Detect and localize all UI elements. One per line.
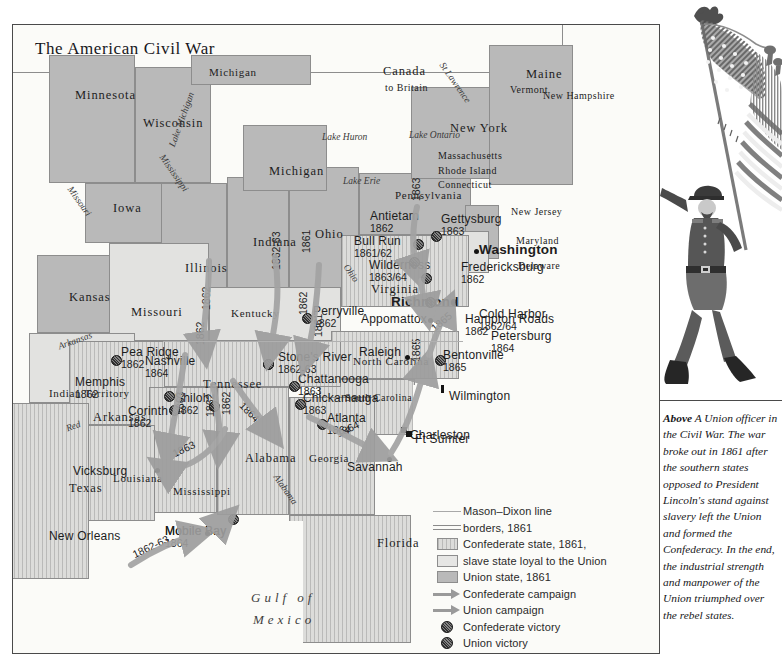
- region-label-pennsylvania: Pennsylvania: [395, 190, 462, 201]
- battle-label-wilderness: Wilderness: [369, 259, 430, 271]
- union-victory-marker-mobile-bay[interactable]: [228, 514, 239, 525]
- legend-label-union-victory-marker: Union victory: [463, 637, 528, 649]
- battle-label-antietam: Antietam: [370, 210, 419, 222]
- union-victory-marker-perryville[interactable]: [302, 313, 313, 324]
- battle-year-bentonville: 1865: [443, 362, 466, 373]
- region-label-michigan: Michigan: [269, 165, 324, 178]
- battle-label-chickamauga: Chickamauga: [303, 392, 379, 404]
- region-label-ohio: Ohio: [315, 228, 344, 241]
- legend-row-union-victory-marker: Union victory: [431, 635, 641, 652]
- union-officer-figure: [660, 186, 756, 384]
- city-marker-appomattox[interactable]: [428, 318, 433, 323]
- battle-label-petersburg: Petersburg: [491, 330, 552, 342]
- region-label-michigan: Michigan: [209, 67, 257, 78]
- battle-year-chickamauga: 1863: [303, 405, 326, 416]
- battle-label-shiloh: Shiloh: [175, 392, 210, 404]
- page-title: The American Civil War: [35, 39, 215, 59]
- legend-label-confederate-state-swatch: Confederate state, 1861,: [463, 538, 587, 550]
- panel-divider: [660, 400, 782, 401]
- water-label-lake-ontario: Lake Ontario: [409, 131, 460, 141]
- region-new-england: [489, 45, 573, 185]
- battle-year-nashville: 1864: [145, 368, 168, 379]
- battle-year-wilderness: 1863/64: [369, 272, 407, 283]
- battle-year-memphis: 1862: [75, 389, 98, 400]
- union-victory-marker-shiloh[interactable]: [209, 401, 220, 412]
- campaign-year-label: 1862-63: [271, 231, 282, 270]
- battle-year-hampton-roads: 1862: [465, 326, 488, 337]
- battle-year-shiloh: 1862: [175, 405, 198, 416]
- city-marker-vicksburg[interactable]: [155, 468, 160, 473]
- city-label-raleigh: Raleigh: [359, 346, 401, 358]
- city-label-savannah: Savannah: [347, 461, 403, 473]
- legend-row-confederate-campaign-arrow: Confederate campaign: [431, 586, 641, 603]
- map-frame: The American Civil War Canada to Britain…: [12, 24, 660, 654]
- city-label-new-orleans: New Orleans: [49, 530, 121, 542]
- battle-label-hampton-roads: Hampton Roads: [465, 313, 554, 325]
- battle-label-perryville: Perryville: [313, 305, 364, 317]
- legend-key-slave-state-loyal-swatch: [431, 555, 463, 567]
- city-label-richmond: Richmond: [391, 295, 459, 309]
- water-label-lake-huron: Lake Huron: [322, 133, 367, 143]
- gulf-of-mexico-label-line1: Gulf of: [251, 591, 315, 604]
- city-label-ft-sumter: Ft Sumter: [415, 433, 469, 445]
- legend-row-confederate-state-swatch: Confederate state, 1861,: [431, 536, 641, 553]
- region-label-kentucky: Kentucky: [231, 308, 279, 319]
- region-label-new-jersey: New Jersey: [511, 207, 562, 217]
- region-label-illinois: Illinois: [185, 262, 228, 275]
- city-label-mobile-bay: Mobile Bay: [165, 525, 226, 537]
- city-marker-wilmington[interactable]: [441, 385, 444, 393]
- battle-year-mobile-bay: 1864: [165, 538, 188, 549]
- battle-year-corinth: 1862: [128, 418, 151, 429]
- gulf-of-mexico-label-line2: Mexico: [253, 613, 315, 626]
- city-label-wilmington: Wilmington: [449, 390, 510, 402]
- map-legend: Mason–Dixon lineborders, 1861Confederate…: [431, 503, 641, 654]
- legend-label-mason-dixon-line: Mason–Dixon line: [463, 505, 552, 517]
- region-label-canada: Canada: [383, 65, 426, 78]
- legend-row-union-campaign-arrow: Union campaign: [431, 602, 641, 619]
- battle-label-atlanta: Atlanta: [327, 412, 366, 424]
- region-label-missouri: Missouri: [131, 306, 183, 319]
- map-page: The American Civil War Canada to Britain…: [0, 0, 782, 667]
- confed-victory-marker-antietam[interactable]: [413, 239, 424, 250]
- region-label-alabama: Alabama: [245, 452, 296, 465]
- legend-key-mason-dixon-line: [431, 511, 463, 512]
- city-marker-ft-sumter[interactable]: [406, 431, 412, 437]
- battle-label-bentonville: Bentonville: [443, 349, 504, 361]
- campaign-year-label: 1862: [201, 287, 212, 310]
- union-victory-marker-memphis[interactable]: [164, 391, 175, 402]
- legend-label-union-state-swatch: Union state, 1861: [463, 571, 551, 583]
- battle-year-pea-ridge: 1862: [121, 359, 144, 370]
- union-victory-marker-nashville[interactable]: [263, 359, 274, 370]
- battle-label-stone-s-river: Stone's River: [278, 351, 352, 363]
- legend-row-borders-1861: borders, 1861: [431, 520, 641, 537]
- campaign-year-label: 1862: [298, 292, 309, 315]
- city-label-washington: Washington: [479, 243, 558, 257]
- battle-label-pea-ridge: Pea Ridge: [121, 346, 179, 358]
- region-label-kansas: Kansas: [69, 291, 111, 304]
- battle-year-atlanta: 1864: [327, 425, 350, 436]
- region-label-vermont: Vermont: [510, 85, 548, 95]
- legend-label-slave-state-loyal-swatch: slave state loyal to the Union: [463, 555, 607, 567]
- confed-victory-marker-wilderness[interactable]: [421, 273, 432, 284]
- region-michigan-lower: [243, 125, 327, 191]
- region-sublabel-canada-to-britain: to Britain: [385, 83, 428, 93]
- region-label-georgia: Georgia: [309, 453, 349, 464]
- legend-row-union-state-swatch: Union state, 1861: [431, 569, 641, 586]
- legend-row-mason-dixon-line: Mason–Dixon line: [431, 503, 641, 520]
- battle-label-bull-run: Bull Run: [354, 235, 401, 247]
- city-label-vicksburg: Vicksburg: [73, 465, 127, 477]
- city-marker-raleigh[interactable]: [405, 355, 410, 360]
- battle-year-antietam: 1862: [370, 223, 393, 234]
- legend-key-union-victory-marker: [431, 637, 463, 649]
- region-label-iowa: Iowa: [113, 202, 142, 215]
- region-minnesota: [49, 55, 135, 183]
- mason-dixon-line: [163, 341, 463, 342]
- region-label-mississippi: Mississippi: [173, 486, 231, 497]
- battle-year-perryville: 1862: [313, 318, 336, 329]
- campaign-year-label: 1861: [301, 230, 312, 253]
- region-label-maine: Maine: [526, 68, 562, 81]
- legend-key-confederate-victory-marker: [431, 621, 463, 633]
- legend-row-slave-state-loyal-swatch: slave state loyal to the Union: [431, 553, 641, 570]
- legend-label-confederate-victory-marker: Confederate victory: [463, 621, 560, 633]
- caption-lead-in: Above: [663, 412, 692, 424]
